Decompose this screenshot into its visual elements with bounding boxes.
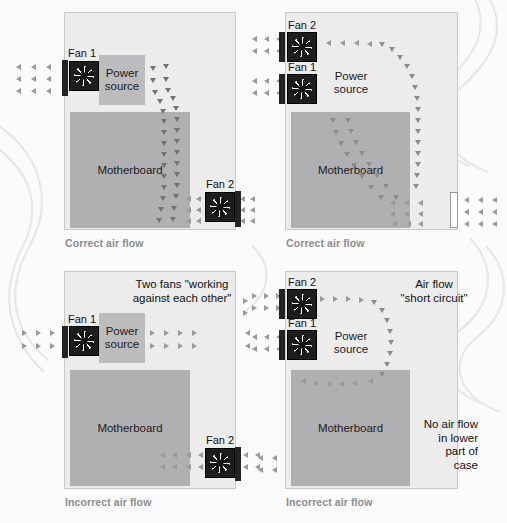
case-vent-top-right bbox=[450, 192, 458, 228]
motherboard-label: Motherboard bbox=[97, 164, 162, 176]
fan-1-label-top-right: Fan 1 bbox=[288, 61, 316, 73]
fan-2-bottom-left bbox=[205, 448, 235, 478]
power-source-label: Power source bbox=[99, 325, 145, 351]
fan-grille-bottom-left-1 bbox=[62, 326, 68, 358]
note-short-circuit: Air flow "short circuit" bbox=[386, 278, 482, 305]
fan-grille-top-left-1 bbox=[62, 60, 68, 96]
fan-grille-bottom-left-2 bbox=[235, 447, 241, 481]
fan-1-label-bottom-right: Fan 1 bbox=[288, 317, 316, 329]
power-source-label: Power source bbox=[325, 330, 377, 356]
fan-2-label-top-right: Fan 2 bbox=[288, 19, 316, 31]
fan-1-bottom-right bbox=[287, 330, 317, 360]
fan-1-bottom-left bbox=[69, 326, 99, 356]
fan-2-top-right bbox=[287, 32, 317, 62]
power-source-top-left: Power source bbox=[99, 55, 145, 105]
power-source-label: Power source bbox=[325, 70, 377, 96]
fan-1-label-top-left: Fan 1 bbox=[68, 47, 96, 59]
fan-1-top-left bbox=[69, 61, 99, 91]
fan-2-bottom-right bbox=[287, 289, 317, 319]
motherboard-bottom-right: Motherboard bbox=[291, 370, 410, 486]
fan-1-top-right bbox=[287, 74, 317, 104]
diagram-stage: Motherboard Power source Fan 1 bbox=[0, 0, 507, 523]
fan-grille-top-left-2 bbox=[235, 191, 241, 227]
fan-grille-bottom-right-2 bbox=[279, 289, 285, 319]
fan-2-label-bottom-right: Fan 2 bbox=[288, 276, 316, 288]
power-source-top-right: Power source bbox=[325, 62, 377, 104]
fan-grille-top-right-1 bbox=[279, 74, 285, 104]
motherboard-label: Motherboard bbox=[318, 422, 383, 434]
note-opposing-fans: Two fans "working against each other" bbox=[128, 278, 236, 305]
caption-top-right: Correct air flow bbox=[286, 237, 365, 249]
motherboard-label: Motherboard bbox=[97, 422, 162, 434]
power-source-label: Power source bbox=[99, 67, 145, 93]
fan-2-top-left bbox=[205, 192, 235, 222]
fan-grille-top-right-2 bbox=[279, 32, 285, 62]
fan-2-label-top-left: Fan 2 bbox=[206, 178, 234, 190]
fan-grille-bottom-right-1 bbox=[279, 330, 285, 360]
caption-bottom-left: Incorrect air flow bbox=[65, 496, 151, 508]
power-source-bottom-right: Power source bbox=[325, 322, 377, 364]
fan-2-label-bottom-left: Fan 2 bbox=[206, 434, 234, 446]
fan-1-label-bottom-left: Fan 1 bbox=[68, 313, 96, 325]
caption-bottom-right: Incorrect air flow bbox=[286, 496, 372, 508]
note-no-lower-flow: No air flow in lower part of case bbox=[408, 418, 478, 472]
power-source-bottom-left: Power source bbox=[99, 313, 145, 363]
caption-top-left: Correct air flow bbox=[65, 237, 144, 249]
